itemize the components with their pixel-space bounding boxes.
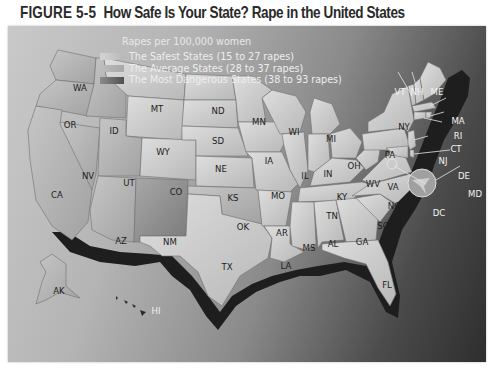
state-label-or: OR	[64, 119, 77, 130]
state-label-mt: MT	[151, 103, 164, 114]
state-label-pa: PA	[385, 149, 396, 160]
state-label-ms: MS	[303, 242, 316, 253]
legend-title: Rapes per 100,000 women	[122, 36, 342, 48]
state-label-ri: RI	[454, 130, 462, 141]
state-label-in: IN	[324, 168, 333, 179]
state-label-mn: MN	[252, 116, 266, 127]
state-label-ca: CA	[51, 189, 63, 200]
state-label-ks: KS	[227, 192, 238, 203]
state-label-wv: WV	[366, 178, 380, 189]
state-label-ga: GA	[356, 236, 369, 247]
state-label-wy: WY	[156, 146, 170, 157]
state-label-fl: FL	[382, 279, 392, 290]
state-hi	[116, 296, 146, 316]
state-label-tx: TX	[220, 261, 232, 272]
state-label-dc: DC	[433, 207, 446, 218]
state-label-az: AZ	[115, 235, 127, 246]
state-label-id: ID	[109, 125, 119, 136]
state-label-sd: SD	[212, 135, 224, 146]
figure-title: FIGURE 5-5How Safe Is Your State? Rape i…	[20, 3, 405, 23]
state-ak	[36, 254, 80, 304]
state-label-oh: OH	[347, 160, 360, 171]
legend-item-dangerous: The Most Dangerous States (38 to 93 rape…	[100, 74, 342, 86]
state-label-ma: MA	[451, 115, 464, 126]
state-label-co: CO	[170, 186, 183, 197]
state-label-hi: HI	[152, 305, 161, 316]
state-ri	[426, 112, 432, 118]
state-label-la: LA	[281, 260, 292, 271]
state-ct	[414, 112, 426, 120]
state-label-nc: NC	[388, 200, 400, 211]
state-label-de: DE	[458, 170, 470, 181]
state-label-al: AL	[328, 238, 339, 249]
legend: Rapes per 100,000 women The Safest State…	[100, 36, 342, 86]
state-label-nv: NV	[82, 170, 94, 181]
state-label-vt: VT	[394, 86, 406, 97]
map-frame: WAORIDMTWYNVUTCOCAAZNMNDSDNEKSOKTXMNIAMO…	[8, 26, 486, 362]
state-label-wi: WI	[289, 126, 300, 137]
state-label-ky: KY	[337, 191, 348, 202]
state-mi	[310, 98, 340, 134]
state-wa	[50, 50, 96, 84]
state-label-ny: NY	[398, 121, 410, 132]
state-label-nm: NM	[163, 236, 177, 247]
figure-number: FIGURE 5-5	[20, 3, 96, 21]
state-label-ne: NE	[215, 163, 227, 174]
legend-swatch-dangerous	[100, 77, 124, 84]
legend-swatch-safest	[100, 53, 124, 60]
state-label-nd: ND	[212, 105, 225, 116]
state-label-tn: TN	[325, 210, 338, 221]
state-label-ct: CT	[450, 143, 462, 154]
state-label-ak: AK	[53, 285, 65, 296]
state-label-ia: IA	[265, 155, 274, 166]
state-label-ut: UT	[123, 177, 135, 188]
state-label-wa: WA	[73, 82, 87, 93]
figure-caption: How Safe Is Your State? Rape in the Unit…	[103, 3, 404, 21]
state-co	[140, 138, 196, 180]
state-label-sc: SC	[377, 220, 388, 231]
legend-swatch-average	[100, 65, 124, 72]
legend-label-safest: The Safest States (15 to 27 rapes)	[129, 51, 294, 63]
state-label-ok: OK	[237, 221, 250, 232]
state-label-me: ME	[431, 86, 444, 97]
legend-item-safest: The Safest States (15 to 27 rapes)	[100, 51, 342, 63]
state-label-md: MD	[468, 188, 482, 199]
state-label-ar: AR	[276, 227, 288, 238]
legend-label-average: The Average States (28 to 37 rapes)	[129, 63, 303, 75]
state-label-mo: MO	[271, 190, 285, 201]
state-label-va: VA	[387, 181, 398, 192]
legend-item-average: The Average States (28 to 37 rapes)	[100, 63, 342, 75]
state-label-il: IL	[301, 170, 309, 181]
state-label-mi: MI	[326, 133, 336, 144]
state-sd	[182, 100, 238, 128]
state-de	[410, 150, 414, 158]
state-label-nj: NJ	[439, 155, 448, 166]
legend-label-dangerous: The Most Dangerous States (38 to 93 rape…	[129, 74, 342, 86]
state-label-nh: NH	[411, 86, 424, 97]
